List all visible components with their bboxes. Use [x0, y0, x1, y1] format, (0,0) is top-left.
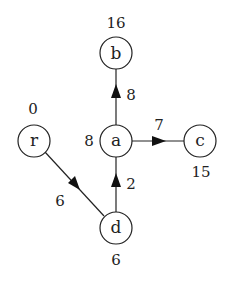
arrow-head-icon [111, 173, 121, 187]
edge-r-d: 6 [45, 152, 104, 216]
edge-d-a: 2 [111, 157, 136, 212]
edge-weight-a-c: 7 [154, 116, 164, 134]
node-distance-a: 8 [84, 132, 94, 150]
node-c: c 15 [184, 125, 216, 181]
graph-svg: 8 7 2 6 b 16 r 0 a [0, 0, 229, 282]
edge-a-b: 8 [111, 69, 136, 125]
arrow-head-icon [152, 136, 166, 146]
node-label-c: c [195, 130, 205, 150]
node-a: a 8 [84, 125, 132, 157]
node-r: r 0 [18, 100, 50, 157]
graph-diagram: 8 7 2 6 b 16 r 0 a [0, 0, 229, 282]
edge-weight-d-a: 2 [126, 175, 136, 193]
node-b: b 16 [100, 14, 132, 69]
node-label-r: r [30, 130, 39, 150]
node-d: d 6 [100, 212, 132, 269]
node-label-a: a [111, 130, 121, 150]
node-label-d: d [111, 217, 122, 237]
node-distance-c: 15 [191, 163, 210, 181]
node-label-b: b [111, 43, 122, 63]
node-distance-r: 0 [28, 100, 38, 118]
edge-weight-r-d: 6 [55, 192, 65, 210]
node-distance-d: 6 [111, 251, 121, 269]
edge-weight-a-b: 8 [126, 86, 136, 104]
node-distance-b: 16 [106, 14, 125, 32]
arrow-head-icon [111, 84, 121, 98]
edge-a-c: 7 [132, 116, 184, 146]
